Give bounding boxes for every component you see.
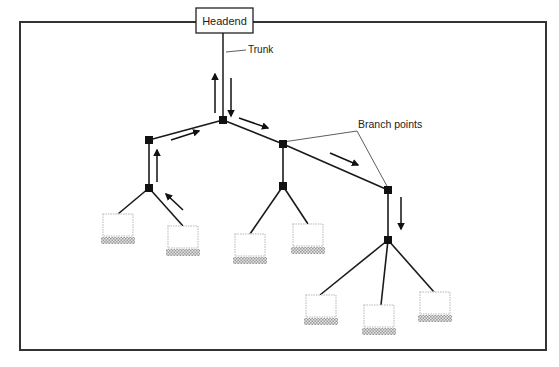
node-left-branch	[145, 136, 153, 144]
laptop-icon	[418, 292, 452, 322]
trunk-leader-line	[226, 50, 246, 52]
cable-network-diagram: Headend Trunk Branch points	[0, 0, 559, 367]
node-right-tap	[384, 236, 392, 244]
laptop-icon	[304, 295, 338, 325]
node-right-branch	[384, 186, 392, 194]
flow-arrows	[157, 118, 401, 229]
arrow-up-left-icon	[166, 194, 183, 210]
laptop-icon	[166, 226, 200, 256]
node-trunk-hub	[219, 116, 227, 124]
laptop-icon	[233, 234, 267, 264]
cable-lines	[118, 120, 434, 305]
laptop-icon	[101, 214, 135, 244]
laptop-icon	[291, 224, 325, 254]
node-left-tap	[145, 184, 153, 192]
node-mid-tap	[279, 182, 287, 190]
arrow-right-down-icon	[330, 153, 358, 165]
branch-points-leaders	[283, 131, 388, 188]
headend-label: Headend	[202, 15, 247, 27]
trunk-label: Trunk	[248, 44, 274, 55]
branch-points-label: Branch points	[358, 118, 422, 130]
headend-box: Headend	[196, 8, 253, 33]
node-mid-branch	[279, 140, 287, 148]
subscriber-devices	[101, 214, 452, 335]
arrow-right-down-icon	[239, 118, 268, 128]
laptop-icon	[362, 305, 396, 335]
